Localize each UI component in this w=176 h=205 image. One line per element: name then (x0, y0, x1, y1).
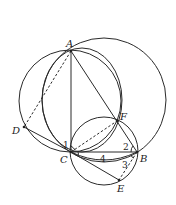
segment-AD (24, 51, 71, 127)
angle-label-4: 4 (100, 154, 106, 164)
label-B: B (139, 153, 147, 164)
label-D: D (11, 125, 20, 136)
point-D (23, 126, 26, 129)
point-E (118, 179, 121, 182)
circle-ACF (42, 48, 122, 152)
angle-label-3: 3 (122, 160, 128, 170)
label-A: A (65, 38, 73, 49)
circle-ADC (19, 50, 121, 152)
angle-mark-4 (78, 152, 79, 156)
label-E: E (116, 183, 125, 194)
label-F: F (119, 111, 128, 122)
angle-mark-2 (131, 146, 133, 152)
angle-label-1: 1 (63, 140, 69, 150)
point-C (70, 151, 73, 154)
label-C: C (60, 154, 68, 165)
point-A (70, 50, 73, 53)
point-B (136, 151, 139, 154)
angle-mark-1 (71, 146, 75, 150)
geometry-figure: A B C D E F 1 2 3 4 (0, 0, 176, 205)
angle-label-2: 2 (123, 142, 129, 152)
point-F (116, 120, 119, 123)
segment-CE (71, 152, 119, 180)
segment-AB (71, 51, 137, 152)
